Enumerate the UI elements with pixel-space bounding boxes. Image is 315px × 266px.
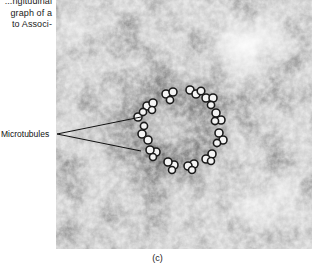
caption-line-3: to Associ- bbox=[0, 19, 52, 31]
electron-micrograph bbox=[56, 0, 312, 249]
panel-label: (c) bbox=[0, 253, 315, 263]
caption-line-1: ...ngitudinal bbox=[0, 0, 52, 8]
caption-fragment: ...ngitudinal graph of a to Associ- bbox=[0, 0, 52, 31]
caption-line-2: graph of a bbox=[0, 8, 52, 20]
microtubules-label: Microtubules bbox=[1, 129, 49, 139]
